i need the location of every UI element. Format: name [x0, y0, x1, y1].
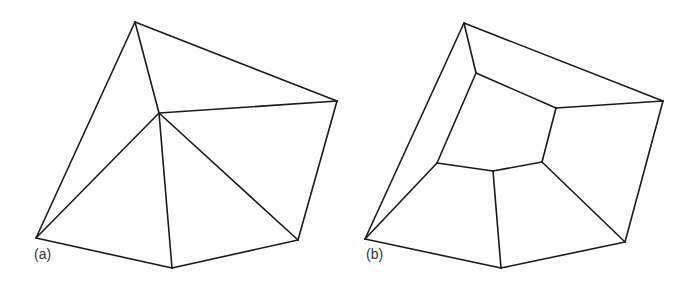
edge-inner_bottom_right-inner_bottom_mid [493, 162, 542, 171]
edge-top-inner_top [464, 23, 476, 73]
edge-bottom_left-top [36, 22, 135, 238]
edge-center-top [135, 22, 159, 113]
edge-bottom_right-bottom_mid [172, 240, 298, 268]
edge-inner_left-inner_top [437, 73, 476, 163]
edge-inner_top-inner_right [476, 73, 556, 108]
panel-a-triangulation [36, 22, 337, 268]
mesh-diagram [0, 0, 696, 296]
panel-b-quad-subdivision [365, 23, 663, 268]
edge-bottom_mid-bottom_left [365, 239, 501, 268]
edge-bottom_left-top [365, 23, 464, 239]
edge-center-bottom_mid [159, 113, 172, 268]
edge-inner_bottom_mid-inner_left [437, 163, 493, 171]
edge-bottom_mid-inner_bottom_mid [493, 171, 501, 268]
edge-center-bottom_right [159, 113, 298, 240]
edge-bottom_mid-bottom_left [36, 238, 172, 268]
edge-center-bottom_left [36, 113, 159, 238]
panel-a-label: (a) [34, 246, 51, 262]
edge-inner_right-inner_bottom_right [542, 108, 556, 162]
edge-right-bottom_right [625, 101, 663, 242]
edge-bottom_right-bottom_mid [501, 242, 625, 268]
edge-top-right [464, 23, 663, 101]
edge-center-right [159, 101, 337, 113]
edge-top-right [135, 22, 337, 101]
edge-right-bottom_right [298, 101, 337, 240]
edge-bottom_left-inner_left [365, 163, 437, 239]
edge-bottom_right-inner_bottom_right [542, 162, 625, 242]
panel-b-label: (b) [366, 246, 383, 262]
edge-right-inner_right [556, 101, 663, 108]
